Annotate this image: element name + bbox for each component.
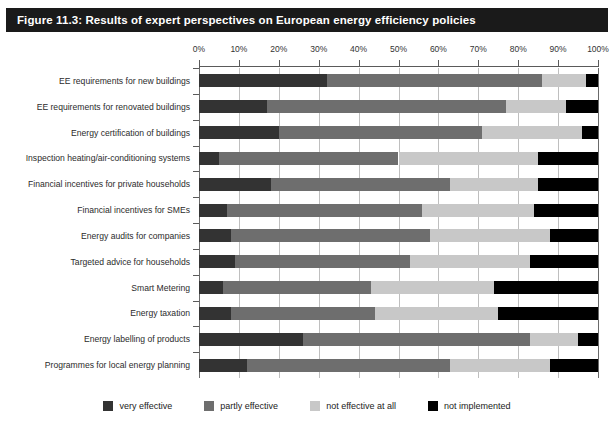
x-tick-90 [558, 60, 559, 66]
bar-segment-not-implemented [534, 204, 598, 217]
bar-row [199, 307, 598, 320]
category-label: Programmes for local energy planning [0, 360, 190, 370]
x-tick-label-0: 0% [193, 44, 205, 54]
bar-segment-very-effective [199, 255, 235, 268]
x-tick-label-70: 70% [470, 44, 487, 54]
gridline-30 [319, 68, 320, 378]
x-tick-10 [239, 60, 240, 66]
x-tick-70 [478, 60, 479, 66]
bar-segment-not-implemented [494, 281, 598, 294]
x-tick-20 [279, 60, 280, 66]
x-tick-label-80: 80% [510, 44, 527, 54]
bar-segment-very-effective [199, 126, 279, 139]
x-tick-label-20: 20% [270, 44, 287, 54]
category-label: Smart Metering [0, 283, 190, 293]
bar-segment-not-implemented [582, 126, 598, 139]
bar-segment-not-implemented [566, 100, 598, 113]
category-label: Inspection heating/air-conditioning syst… [0, 153, 190, 163]
bar-segment-not-effective-at-all [375, 307, 499, 320]
bar-segment-not-effective-at-all [530, 333, 578, 346]
bar-segment-very-effective [199, 152, 219, 165]
figure-title-bar: Figure 11.3: Results of expert perspecti… [6, 8, 608, 32]
legend-swatch-icon [103, 401, 113, 411]
bar-row [199, 126, 598, 139]
bar-segment-not-implemented [538, 178, 598, 191]
bar-segment-not-implemented [538, 152, 598, 165]
bar-segment-partly-effective [279, 126, 482, 139]
x-tick-label-90: 90% [550, 44, 567, 54]
legend-item[interactable]: not implemented [428, 401, 511, 411]
chart-legend: very effectivepartly effectivenot effect… [0, 396, 614, 416]
x-tick-80 [518, 60, 519, 66]
x-tick-label-50: 50% [390, 44, 407, 54]
category-label: EE requirements for renovated buildings [0, 102, 190, 112]
category-label: Financial incentives for SMEs [0, 205, 190, 215]
bar-segment-not-effective-at-all [410, 255, 530, 268]
bar-segment-partly-effective [235, 255, 411, 268]
gridline-60 [438, 68, 439, 378]
x-tick-label-30: 30% [310, 44, 327, 54]
category-label: Energy audits for companies [0, 231, 190, 241]
bar-segment-very-effective [199, 204, 227, 217]
category-label: Financial incentives for private househo… [0, 179, 190, 189]
bar-segment-not-implemented [578, 333, 598, 346]
bar-segment-partly-effective [223, 281, 371, 294]
bar-segment-very-effective [199, 229, 231, 242]
gridline-70 [478, 68, 479, 378]
bar-segment-not-implemented [550, 229, 598, 242]
bar-segment-not-implemented [530, 255, 598, 268]
bar-segment-partly-effective [231, 229, 431, 242]
gridline-10 [239, 68, 240, 378]
legend-swatch-icon [428, 401, 438, 411]
bar-row [199, 100, 598, 113]
bar-segment-very-effective [199, 307, 231, 320]
bar-row [199, 333, 598, 346]
legend-item[interactable]: partly effective [204, 401, 278, 411]
plot-region [199, 68, 598, 378]
bar-segment-not-effective-at-all [399, 152, 539, 165]
x-tick-60 [438, 60, 439, 66]
bar-segment-partly-effective [303, 333, 530, 346]
bar-segment-very-effective [199, 74, 327, 87]
legend-item[interactable]: not effective at all [310, 401, 396, 411]
bar-segment-not-effective-at-all [506, 100, 566, 113]
bar-segment-not-effective-at-all [371, 281, 495, 294]
bar-segment-very-effective [199, 281, 223, 294]
bar-segment-not-effective-at-all [422, 204, 534, 217]
legend-item[interactable]: very effective [103, 401, 172, 411]
x-axis-line [199, 66, 599, 67]
bar-segment-partly-effective [247, 359, 450, 372]
bar-segment-very-effective [199, 359, 247, 372]
bar-row [199, 178, 598, 191]
x-tick-30 [319, 60, 320, 66]
x-tick-label-40: 40% [350, 44, 367, 54]
gridline-100 [598, 68, 599, 378]
figure-title: Figure 11.3: Results of expert perspecti… [6, 14, 476, 26]
bar-row [199, 204, 598, 217]
bar-segment-not-implemented [586, 74, 598, 87]
figure-container: Figure 11.3: Results of expert perspecti… [0, 0, 614, 425]
gridline-40 [359, 68, 360, 378]
legend-label: not effective at all [326, 401, 396, 411]
x-tick-label-10: 10% [230, 44, 247, 54]
gridline-20 [279, 68, 280, 378]
category-label: Targeted advice for households [0, 257, 190, 267]
gridline-0 [199, 68, 200, 378]
gridline-80 [518, 68, 519, 378]
x-tick-50 [399, 60, 400, 66]
bar-segment-not-implemented [550, 359, 598, 372]
bar-segment-not-implemented [498, 307, 598, 320]
bar-segment-very-effective [199, 333, 303, 346]
category-label: Energy taxation [0, 308, 190, 318]
x-tick-100 [598, 60, 599, 66]
bar-segment-not-effective-at-all [450, 178, 538, 191]
bar-row [199, 74, 598, 87]
gridline-90 [558, 68, 559, 378]
bar-row [199, 359, 598, 372]
bar-segment-not-effective-at-all [450, 359, 550, 372]
x-tick-label-100: 100% [587, 44, 609, 54]
bar-segment-partly-effective [227, 204, 423, 217]
chart-area: 0%10%20%30%40%50%60%70%80%90%100% EE req… [0, 40, 614, 390]
bar-segment-partly-effective [231, 307, 375, 320]
legend-swatch-icon [204, 401, 214, 411]
